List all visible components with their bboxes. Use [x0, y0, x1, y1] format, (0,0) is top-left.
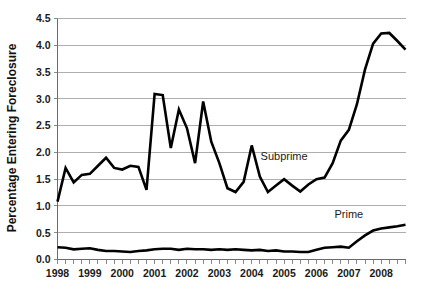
y-tick-label: 3.5 [36, 66, 51, 78]
x-tick-label: 2002 [175, 267, 199, 279]
series-annotation-subprime: Subprime [261, 150, 308, 162]
x-tick-label: 2001 [143, 267, 167, 279]
series-line-prime [58, 225, 406, 252]
y-tick-label: 0.5 [36, 227, 51, 239]
x-tick-label: 2005 [272, 267, 296, 279]
y-axis-title: Percentage Entering Foreclosure [5, 43, 19, 232]
chart-canvas: 0.00.51.01.52.02.53.03.54.04.5 199819992… [0, 0, 424, 297]
x-tick-label: 1998 [46, 267, 70, 279]
gridlines [58, 19, 406, 233]
y-tick-label: 3.0 [36, 93, 51, 105]
y-tick-label: 2.5 [36, 119, 51, 131]
foreclosure-line-chart: 0.00.51.01.52.02.53.03.54.04.5 199819992… [0, 0, 424, 297]
x-tick-label: 2008 [370, 267, 394, 279]
y-tick-label: 1.0 [36, 200, 51, 212]
y-tick-label: 4.5 [36, 12, 51, 24]
x-axis [58, 19, 406, 260]
y-tick-label: 4.0 [36, 39, 51, 51]
y-tick-label: 1.5 [36, 173, 51, 185]
x-tick-label: 1999 [78, 267, 102, 279]
y-tick-label: 0.0 [36, 253, 51, 265]
series-line-subprime [58, 33, 406, 202]
x-axis-ticks: 1998199920002001200220032004200520062007… [46, 260, 406, 279]
y-tick-label: 2.0 [36, 146, 51, 158]
x-tick-label: 2004 [240, 267, 264, 279]
x-tick-label: 2007 [337, 267, 361, 279]
x-tick-label: 2006 [305, 267, 329, 279]
x-tick-label: 2000 [111, 267, 135, 279]
x-tick-label: 2003 [208, 267, 232, 279]
series-annotation-prime: Prime [334, 208, 363, 220]
y-axis-ticks: 0.00.51.01.52.02.53.03.54.04.5 [36, 12, 58, 265]
